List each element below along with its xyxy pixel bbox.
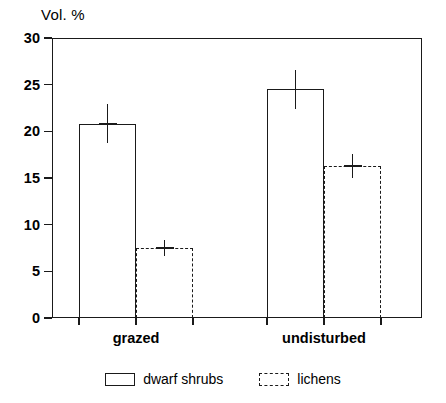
y-tick-mark (44, 84, 52, 85)
legend-label: dwarf shrubs (143, 371, 223, 387)
bar-chart-figure: Vol. % 051015202530 grazedundisturbed dw… (0, 0, 446, 403)
bar-lichens-grazed (136, 248, 193, 318)
y-tick-label: 5 (8, 264, 40, 279)
x-tick-mark (380, 318, 381, 325)
legend-item-dwarf-shrubs: dwarf shrubs (105, 371, 223, 387)
legend-label: lichens (297, 371, 341, 387)
legend-swatch-solid (105, 373, 135, 386)
bar-dwarf-shrubs-undisturbed (267, 89, 324, 318)
y-tick-label: 10 (8, 218, 40, 233)
legend-swatch-dashed (259, 373, 289, 386)
x-category-label-undisturbed: undisturbed (244, 330, 404, 346)
error-bar-cap (287, 89, 305, 91)
x-tick-mark (323, 318, 324, 325)
y-tick-mark (44, 317, 52, 318)
bar-lichens-undisturbed (324, 166, 381, 318)
legend-item-lichens: lichens (259, 371, 341, 387)
x-tick-mark (192, 318, 193, 325)
bar-dwarf-shrubs-grazed (79, 124, 136, 318)
y-tick-mark (44, 224, 52, 225)
error-bar-cap (99, 123, 117, 125)
y-axis-title: Vol. % (41, 6, 85, 23)
y-tick-label: 20 (8, 124, 40, 139)
x-tick-mark (78, 318, 79, 325)
x-category-label-grazed: grazed (56, 330, 216, 346)
x-tick-mark (266, 318, 267, 325)
y-tick-mark (44, 37, 52, 38)
chart-legend: dwarf shrubslichens (0, 371, 446, 387)
x-tick-mark (135, 318, 136, 325)
y-tick-label: 0 (8, 311, 40, 326)
y-tick-mark (44, 177, 52, 178)
y-tick-mark (44, 131, 52, 132)
y-tick-label: 30 (8, 31, 40, 46)
error-bar-cap (344, 165, 362, 167)
y-tick-label: 25 (8, 78, 40, 93)
y-tick-mark (44, 271, 52, 272)
y-tick-label: 15 (8, 171, 40, 186)
error-bar-cap (156, 247, 174, 249)
